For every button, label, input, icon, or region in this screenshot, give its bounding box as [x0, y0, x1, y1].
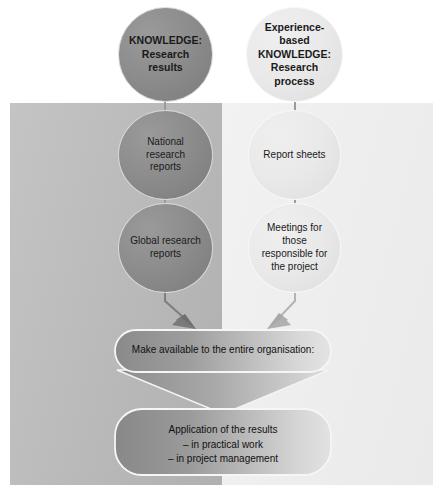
node-label-line2: KNOWLEDGE:: [258, 48, 331, 60]
node-knowledge-research-results[interactable]: KNOWLEDGE: Research results: [118, 7, 213, 102]
node-label-line1: Meetings for those: [267, 222, 322, 246]
node-label: Report sheets: [254, 149, 334, 162]
node-label: Meetings for those responsible for the p…: [249, 222, 340, 273]
node-label-line1: Experience-based: [265, 21, 325, 46]
node-label-line3: the project: [271, 261, 318, 272]
make-available-bar: [115, 330, 331, 372]
node-label-line3: Research process: [271, 61, 318, 86]
node-label-line2: reports: [150, 161, 181, 172]
diagram-canvas: KNOWLEDGE: Research results Experience-b…: [0, 0, 443, 504]
node-label-line2: reports: [150, 248, 181, 259]
node-label: KNOWLEDGE: Research results: [119, 34, 212, 74]
node-label: Global research reports: [121, 235, 210, 261]
node-experience-based-knowledge[interactable]: Experience-based KNOWLEDGE: Research pro…: [246, 7, 343, 102]
node-label-line1: Report sheets: [263, 149, 325, 160]
node-meetings-for-responsible[interactable]: Meetings for those responsible for the p…: [248, 203, 341, 293]
node-global-research-reports[interactable]: Global research reports: [118, 203, 213, 293]
node-label-line1: Global research: [130, 235, 201, 246]
node-label-line2: Research results: [142, 48, 189, 73]
flow-shapes: [0, 0, 443, 504]
application-bar: [115, 409, 331, 475]
node-report-sheets[interactable]: Report sheets: [248, 110, 341, 200]
node-label-line1: National research: [146, 136, 185, 160]
node-label: Experience-based KNOWLEDGE: Research pro…: [247, 21, 342, 88]
node-label-line2: responsible for: [262, 248, 328, 259]
node-national-research-reports[interactable]: National research reports: [118, 110, 213, 200]
node-label: National research reports: [119, 136, 212, 174]
funnel-shape: [117, 370, 329, 414]
node-label-line1: KNOWLEDGE:: [129, 34, 202, 46]
